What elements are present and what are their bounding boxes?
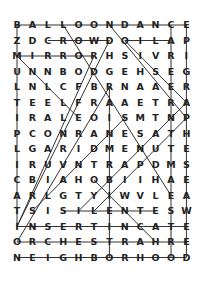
letter-cell[interactable]: R — [164, 235, 178, 249]
letter-cell[interactable]: D — [87, 142, 101, 156]
letter-cell[interactable]: E — [164, 189, 178, 203]
letter-cell[interactable]: E — [56, 220, 70, 234]
letter-cell[interactable]: S — [25, 204, 39, 218]
letter-cell[interactable]: O — [72, 49, 86, 63]
letter-cell[interactable]: R — [118, 235, 132, 249]
letter-cell[interactable]: E — [164, 80, 178, 94]
letter-cell[interactable]: R — [56, 142, 70, 156]
letter-cell[interactable]: P — [179, 34, 193, 48]
letter-cell[interactable]: T — [149, 111, 163, 125]
letter-cell[interactable]: R — [25, 189, 39, 203]
letter-cell[interactable]: G — [179, 65, 193, 79]
letter-cell[interactable]: V — [149, 49, 163, 63]
letter-cell[interactable]: E — [118, 127, 132, 141]
letter-cell[interactable]: R — [87, 49, 101, 63]
letter-cell[interactable]: O — [87, 173, 101, 187]
letter-cell[interactable]: T — [87, 158, 101, 172]
letter-cell[interactable]: I — [10, 111, 24, 125]
letter-cell[interactable]: T — [164, 142, 178, 156]
letter-cell[interactable]: N — [118, 204, 132, 218]
letter-cell[interactable]: N — [10, 251, 24, 265]
letter-cell[interactable]: R — [41, 49, 55, 63]
letter-cell[interactable]: E — [179, 220, 193, 234]
letter-cell[interactable]: C — [133, 220, 147, 234]
letter-cell[interactable]: R — [25, 235, 39, 249]
letter-cell[interactable]: G — [102, 65, 116, 79]
letter-cell[interactable]: I — [10, 158, 24, 172]
letter-cell[interactable]: R — [56, 49, 70, 63]
letter-cell[interactable]: S — [164, 204, 178, 218]
letter-cell[interactable]: R — [56, 34, 70, 48]
letter-cell[interactable]: N — [149, 18, 163, 32]
letter-cell[interactable]: A — [25, 18, 39, 32]
letter-cell[interactable]: O — [87, 18, 101, 32]
letter-cell[interactable]: A — [149, 220, 163, 234]
letter-cell[interactable]: V — [56, 158, 70, 172]
letter-cell[interactable]: E — [179, 18, 193, 32]
letter-cell[interactable]: T — [102, 235, 116, 249]
letter-cell[interactable]: O — [118, 34, 132, 48]
letter-cell[interactable]: S — [118, 111, 132, 125]
letter-cell[interactable]: E — [133, 96, 147, 110]
letter-cell[interactable]: E — [25, 96, 39, 110]
letter-cell[interactable]: R — [25, 158, 39, 172]
letter-cell[interactable]: I — [72, 204, 86, 218]
letter-cell[interactable]: R — [72, 127, 86, 141]
letter-cell[interactable]: I — [133, 34, 147, 48]
letter-cell[interactable]: A — [164, 34, 178, 48]
letter-cell[interactable]: R — [164, 49, 178, 63]
letter-cell[interactable]: E — [164, 65, 178, 79]
letter-cell[interactable]: P — [10, 127, 24, 141]
letter-cell[interactable]: S — [87, 235, 101, 249]
letter-cell[interactable]: N — [118, 80, 132, 94]
letter-cell[interactable]: G — [56, 189, 70, 203]
letter-cell[interactable]: O — [10, 235, 24, 249]
letter-cell[interactable]: D — [102, 34, 116, 48]
letter-cell[interactable]: N — [102, 18, 116, 32]
letter-cell[interactable]: L — [87, 204, 101, 218]
letter-cell[interactable]: L — [41, 80, 55, 94]
letter-cell[interactable]: A — [133, 235, 147, 249]
letter-cell[interactable]: E — [25, 251, 39, 265]
letter-cell[interactable]: E — [179, 142, 193, 156]
letter-cell[interactable]: A — [41, 111, 55, 125]
letter-cell[interactable]: I — [179, 49, 193, 63]
letter-cell[interactable]: N — [25, 220, 39, 234]
letter-cell[interactable]: R — [25, 111, 39, 125]
letter-cell[interactable]: L — [56, 18, 70, 32]
letter-cell[interactable]: D — [25, 34, 39, 48]
letter-cell[interactable]: I — [41, 173, 55, 187]
letter-cell[interactable]: A — [164, 173, 178, 187]
letter-cell[interactable]: C — [25, 127, 39, 141]
letter-cell[interactable]: L — [41, 189, 55, 203]
letter-cell[interactable]: N — [118, 220, 132, 234]
letter-cell[interactable]: L — [56, 111, 70, 125]
letter-cell[interactable]: S — [118, 49, 132, 63]
letter-cell[interactable]: C — [41, 235, 55, 249]
letter-cell[interactable]: R — [179, 80, 193, 94]
letter-cell[interactable]: N — [102, 127, 116, 141]
letter-cell[interactable]: M — [10, 49, 24, 63]
letter-cell[interactable]: I — [10, 220, 24, 234]
letter-cell[interactable]: A — [179, 96, 193, 110]
letter-cell[interactable]: S — [41, 220, 55, 234]
letter-cell[interactable]: G — [25, 142, 39, 156]
letter-cell[interactable]: I — [41, 204, 55, 218]
letter-cell[interactable]: H — [102, 49, 116, 63]
letter-cell[interactable]: Y — [87, 189, 101, 203]
letter-cell[interactable]: A — [10, 189, 24, 203]
letter-cell[interactable]: I — [72, 142, 86, 156]
letter-cell[interactable]: E — [41, 96, 55, 110]
letter-cell[interactable]: A — [56, 173, 70, 187]
letter-cell[interactable]: U — [149, 142, 163, 156]
letter-cell[interactable]: M — [164, 158, 178, 172]
letter-cell[interactable]: B — [25, 173, 39, 187]
letter-cell[interactable]: U — [41, 158, 55, 172]
letter-cell[interactable]: O — [72, 34, 86, 48]
letter-cell[interactable]: B — [87, 251, 101, 265]
letter-cell[interactable]: I — [133, 173, 147, 187]
letter-cell[interactable]: D — [149, 158, 163, 172]
letter-cell[interactable]: I — [102, 189, 116, 203]
letter-cell[interactable]: I — [102, 220, 116, 234]
letter-cell[interactable]: D — [179, 251, 193, 265]
